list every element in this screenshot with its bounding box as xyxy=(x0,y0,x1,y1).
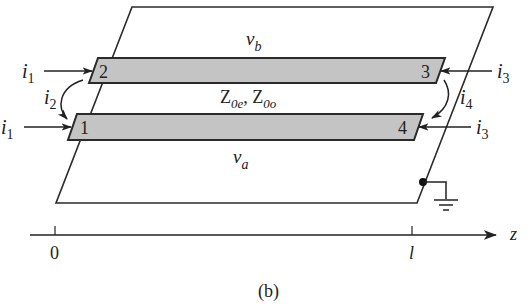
current-i3-upper-label: i3 xyxy=(497,60,510,86)
current-i4-label: i4 xyxy=(460,86,473,112)
port-4-label: 4 xyxy=(398,118,407,138)
coupled-line-diagram: 2 3 1 4 vb va Z0e, Z0o i1 i1 i2 i3 i3 i4 xyxy=(0,0,530,305)
lower-strip xyxy=(68,114,423,140)
upper-strip xyxy=(89,58,445,83)
port-2-label: 2 xyxy=(99,62,108,82)
ground-icon xyxy=(419,178,458,210)
port-3-label: 3 xyxy=(421,62,430,82)
figure-caption: (b) xyxy=(258,281,279,302)
current-i1-upper-label: i1 xyxy=(22,60,35,86)
axis-tick-l-label: l xyxy=(409,243,414,263)
current-i2-label: i2 xyxy=(44,86,57,112)
current-i3-lower-label: i3 xyxy=(476,116,489,142)
current-i1-lower-label: i1 xyxy=(1,116,14,142)
axis-tick-0-label: 0 xyxy=(50,243,59,263)
axis-z-label: z xyxy=(509,224,517,244)
port-1-label: 1 xyxy=(80,118,89,138)
